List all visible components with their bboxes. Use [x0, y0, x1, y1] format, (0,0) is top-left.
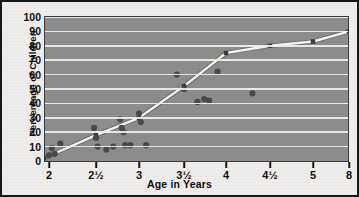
- x-axis-title: Age in Years: [2, 178, 357, 190]
- x-axis-ticks: 22½33½44½58: [2, 2, 359, 197]
- x-tick-mark-0: [48, 162, 50, 168]
- x-tick-mark-3: [183, 162, 185, 168]
- x-tick-mark-6: [312, 162, 314, 168]
- x-tick-mark-5: [269, 162, 271, 168]
- x-tick-mark-7: [348, 162, 350, 168]
- chart-figure: Percentage of Children 01020304050607080…: [0, 0, 359, 197]
- x-tick-mark-1: [95, 162, 97, 168]
- x-tick-mark-4: [225, 162, 227, 168]
- x-tick-mark-2: [138, 162, 140, 168]
